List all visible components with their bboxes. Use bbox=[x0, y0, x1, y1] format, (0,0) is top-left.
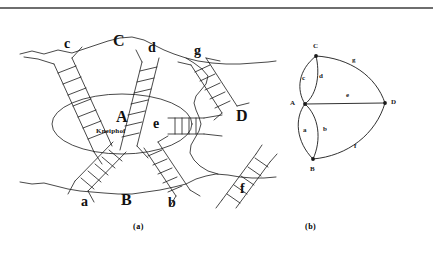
road-a-south bbox=[68, 181, 75, 194]
map-label-bridge-b: b bbox=[168, 196, 176, 210]
graph-vertex-A bbox=[303, 102, 307, 106]
caption-panel-a: (a) bbox=[133, 222, 144, 231]
graph-label-vertex-D: D bbox=[391, 99, 396, 106]
panel-map-konigsberg: C c d g A Kneiphof e D a B b f bbox=[18, 14, 278, 214]
caption-panel-b: (b) bbox=[305, 222, 316, 231]
graph-label-vertex-A: A bbox=[290, 100, 295, 107]
graph-label-edge-a: a bbox=[303, 127, 307, 134]
road-c-north bbox=[24, 57, 54, 64]
graph-vertex-C bbox=[314, 54, 318, 58]
graph-label-edge-g: g bbox=[352, 57, 356, 64]
road-b-south2 bbox=[190, 190, 200, 196]
road-d-north bbox=[136, 50, 142, 62]
map-label-C: C bbox=[113, 33, 125, 49]
map-label-bridge-a: a bbox=[81, 195, 88, 209]
river-bank-south bbox=[20, 174, 276, 194]
graph-drawing bbox=[272, 40, 422, 180]
map-label-bridge-d: d bbox=[148, 41, 156, 55]
bridge-c bbox=[54, 58, 112, 152]
konigsberg-figure: C c d g A Kneiphof e D a B b f bbox=[0, 0, 433, 256]
map-label-A: A bbox=[116, 109, 128, 125]
road-g-se2 bbox=[237, 103, 249, 106]
top-divider bbox=[0, 7, 433, 9]
graph-label-edge-e: e bbox=[346, 92, 349, 99]
panel-multigraph: C A D B c d g e a b f bbox=[272, 40, 422, 180]
road-f-south bbox=[216, 200, 222, 208]
graph-edge-g bbox=[316, 56, 385, 103]
map-label-bridge-f: f bbox=[240, 182, 245, 196]
road-b-north bbox=[158, 136, 168, 142]
map-label-bridge-g: g bbox=[194, 44, 201, 58]
bridge-a bbox=[75, 142, 126, 191]
road-a-south2 bbox=[88, 191, 94, 202]
road-f-north bbox=[256, 145, 262, 154]
graph-label-edge-f: f bbox=[354, 143, 356, 150]
bridge-b bbox=[144, 142, 190, 196]
map-label-D: D bbox=[236, 108, 248, 124]
graph-edge-d bbox=[305, 56, 318, 104]
bridge-f bbox=[222, 154, 270, 208]
graph-label-edge-c: c bbox=[302, 75, 305, 82]
road-e-east2 bbox=[204, 134, 222, 136]
graph-label-vertex-C: C bbox=[313, 43, 318, 50]
graph-label-vertex-B: B bbox=[310, 166, 315, 173]
graph-vertex-D bbox=[383, 101, 387, 105]
graph-edge-e bbox=[305, 103, 385, 104]
map-label-B: B bbox=[121, 192, 132, 208]
road-e-east bbox=[204, 115, 222, 118]
graph-label-edge-d: d bbox=[319, 73, 323, 80]
map-label-bridge-e: e bbox=[153, 117, 159, 131]
graph-label-edge-b: b bbox=[323, 126, 327, 133]
road-c-south bbox=[94, 152, 102, 164]
bridge-d bbox=[120, 58, 159, 150]
map-label-kneiphof: Kneiphof bbox=[96, 128, 126, 135]
graph-vertex-B bbox=[311, 157, 315, 161]
map-label-bridge-c: c bbox=[64, 37, 70, 51]
river-bank-east bbox=[186, 58, 218, 174]
road-g-west bbox=[178, 62, 191, 65]
